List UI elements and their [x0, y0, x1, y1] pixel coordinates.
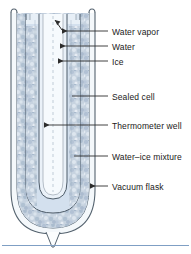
thermometer-well — [39, 14, 67, 199]
label-thermometer-well: Thermometer well — [112, 121, 182, 131]
label-vacuum-flask: Vacuum flask — [112, 182, 164, 192]
label-water-ice-mixture: Water–ice mixture — [112, 152, 182, 162]
ice-region-right — [69, 26, 80, 206]
label-ice: Ice — [112, 57, 124, 67]
label-water: Water — [112, 42, 135, 52]
label-water-vapor: Water vapor — [112, 27, 159, 37]
ice-region-left — [26, 26, 37, 206]
label-sealed-cell: Sealed cell — [112, 92, 155, 102]
footer-rule — [2, 245, 189, 246]
